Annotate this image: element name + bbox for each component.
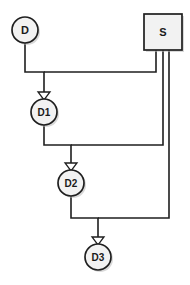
node-s-label: S — [159, 26, 166, 38]
node-d[interactable]: D — [12, 17, 40, 45]
node-d-label: D — [21, 24, 29, 36]
flow-diagram: D S D1 D2 D3 — [0, 0, 190, 285]
edge-s-to-d2 — [71, 50, 163, 145]
edge-s-to-d1 — [44, 50, 156, 72]
node-d3-label: D3 — [92, 252, 105, 263]
diagram-canvas: D S D1 D2 D3 — [0, 0, 190, 285]
edge-d1-to-d2 — [44, 125, 71, 166]
node-d2[interactable]: D2 — [58, 170, 86, 198]
edge-d2-to-d3 — [71, 196, 98, 240]
edge-d-to-d1 — [25, 43, 44, 95]
node-d1[interactable]: D1 — [31, 99, 59, 127]
edge-group — [25, 43, 169, 240]
node-d3[interactable]: D3 — [85, 244, 113, 272]
node-s[interactable]: S — [144, 14, 184, 52]
node-d1-label: D1 — [38, 107, 51, 118]
edge-s-to-d3 — [98, 50, 169, 218]
node-d2-label: D2 — [65, 178, 78, 189]
